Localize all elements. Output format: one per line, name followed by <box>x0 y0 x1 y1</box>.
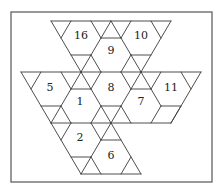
label-7: 7 <box>138 95 145 108</box>
label-2: 2 <box>77 131 84 144</box>
hexagon-labels: 16 9 10 5 1 8 7 11 2 6 <box>47 29 179 162</box>
label-1: 1 <box>77 95 84 108</box>
label-6: 6 <box>108 149 115 162</box>
label-10: 10 <box>134 29 148 42</box>
label-5: 5 <box>47 81 54 94</box>
label-9: 9 <box>108 44 115 57</box>
triangle-hexagon-diagram: 16 9 10 5 1 8 7 11 2 6 <box>0 0 223 187</box>
label-8: 8 <box>108 81 115 94</box>
label-11: 11 <box>164 81 178 94</box>
label-16: 16 <box>74 29 88 42</box>
